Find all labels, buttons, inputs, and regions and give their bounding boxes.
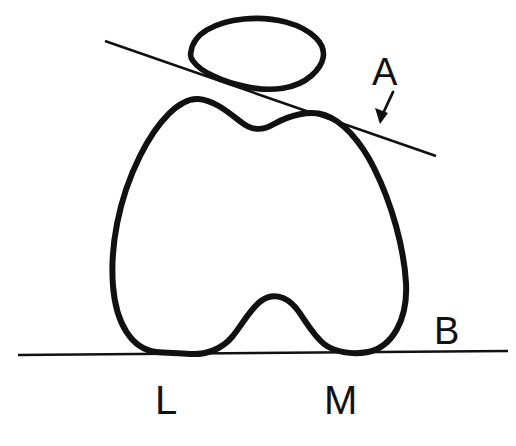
- label-lateral-condyle: L: [155, 380, 177, 420]
- label-b: B: [434, 312, 459, 350]
- knee-diagram-svg: [0, 0, 516, 446]
- label-a: A: [372, 53, 397, 91]
- figure-canvas: A B L M: [0, 0, 516, 446]
- label-medial-condyle: M: [324, 380, 357, 420]
- femoral-condyle-outline: [112, 99, 406, 354]
- arrow-head-a: [375, 108, 388, 124]
